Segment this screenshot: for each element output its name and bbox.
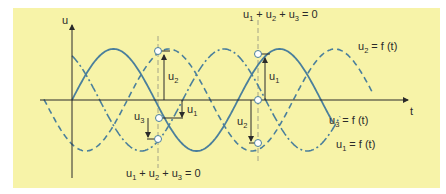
point-u2-left <box>155 48 162 55</box>
y-axis-label: u <box>62 14 68 26</box>
point-u3-right <box>255 97 262 104</box>
point-u1-left <box>156 115 163 122</box>
point-u1-right <box>255 51 262 58</box>
diagram-background <box>13 8 440 188</box>
point-u2-right <box>255 140 262 147</box>
point-u3-left <box>155 136 162 143</box>
three-phase-diagram: u t u2 u1 u3 u1 u2 u1 + u2 + u3 = 0 u1 +… <box>0 0 446 194</box>
x-axis-label: t <box>410 105 413 117</box>
